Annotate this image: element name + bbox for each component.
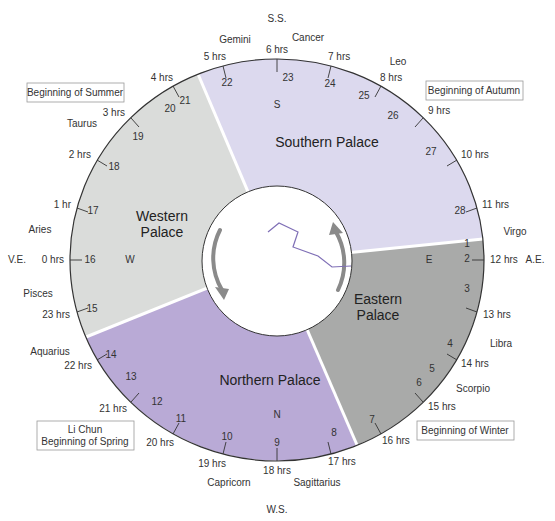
zodiac-leo: Leo	[390, 56, 407, 67]
western-palace-label-line2: Palace	[141, 224, 184, 240]
mansion-21: 21	[179, 95, 191, 106]
zodiac-aries: Aries	[29, 224, 52, 235]
lunar-mansions-diagram: 0 hrs 1 hr 2 hrs 3 hrs 4 hrs 5 hrs 6 hrs…	[0, 0, 555, 521]
hour-label-9: 9 hrs	[428, 105, 450, 116]
mansion-17: 17	[87, 205, 99, 216]
vernal-equinox-label: V.E.	[8, 254, 26, 265]
mansion-23: 23	[282, 72, 294, 83]
hour-label-11: 11 hrs	[482, 199, 509, 210]
hour-label-12: 12 hrs	[490, 254, 518, 265]
eastern-palace-label-line2: Palace	[357, 307, 400, 323]
hour-label-4: 4 hrs	[151, 72, 173, 83]
western-direction: W	[125, 254, 135, 265]
zodiac-capricorn: Capricorn	[207, 477, 250, 488]
zodiac-pisces: Pisces	[23, 288, 52, 299]
hour-label-0: 0 hrs	[42, 254, 64, 265]
mansion-8: 8	[331, 427, 337, 438]
li-chun-label: Li Chun	[68, 424, 102, 435]
beginning-of-spring-label: Beginning of Spring	[41, 436, 128, 447]
zodiac-taurus: Taurus	[67, 118, 97, 129]
hour-label-14: 14 hrs	[461, 358, 489, 369]
eastern-direction: E	[426, 254, 433, 265]
mansion-2: 2	[464, 253, 470, 264]
zodiac-scorpio: Scorpio	[456, 383, 490, 394]
hour-label-10: 10 hrs	[461, 149, 489, 160]
northern-direction: N	[273, 409, 280, 420]
hour-label-16: 16 hrs	[382, 435, 410, 446]
hour-label-5: 5 hrs	[204, 51, 226, 62]
mansion-10: 10	[221, 431, 233, 442]
hour-label-7: 7 hrs	[328, 51, 350, 62]
zodiac-libra: Libra	[490, 338, 513, 349]
mansion-6: 6	[416, 377, 422, 388]
beginning-of-autumn-label: Beginning of Autumn	[428, 85, 520, 96]
autumnal-equinox-label: A.E.	[526, 254, 545, 265]
mansion-22: 22	[221, 77, 233, 88]
western-palace-label-line1: Western	[136, 208, 188, 224]
mansion-25: 25	[358, 90, 370, 101]
summer-solstice-label: S.S.	[268, 13, 287, 24]
mansion-7: 7	[369, 414, 375, 425]
mansion-13: 13	[125, 371, 137, 382]
hour-label-6: 6 hrs	[266, 44, 288, 55]
northern-palace-label: Northern Palace	[219, 372, 320, 388]
hour-label-3: 3 hrs	[103, 107, 125, 118]
mansion-9: 9	[274, 437, 280, 448]
mansion-1: 1	[464, 238, 470, 249]
winter-solstice-label: W.S.	[266, 504, 287, 515]
hour-label-8: 8 hrs	[380, 72, 402, 83]
mansion-19: 19	[132, 131, 144, 142]
zodiac-cancer: Cancer	[292, 32, 325, 43]
mansion-20: 20	[164, 103, 176, 114]
southern-palace-label: Southern Palace	[275, 134, 379, 150]
mansion-24: 24	[324, 78, 336, 89]
hour-label-15: 15 hrs	[428, 401, 456, 412]
hour-label-2: 2 hrs	[69, 149, 91, 160]
mansion-12: 12	[151, 396, 163, 407]
hour-label-23: 23 hrs	[42, 309, 70, 320]
mansion-27: 27	[425, 146, 437, 157]
hour-label-13: 13 hrs	[483, 309, 511, 320]
hour-label-17: 17 hrs	[328, 456, 356, 467]
inner-circle	[202, 186, 352, 336]
eastern-palace-label-line1: Eastern	[354, 291, 402, 307]
mansion-3: 3	[464, 283, 470, 294]
mansion-11: 11	[176, 413, 187, 424]
mansion-28: 28	[454, 205, 466, 216]
mansion-4: 4	[447, 338, 453, 349]
hour-label-20: 20 hrs	[146, 437, 174, 448]
zodiac-virgo: Virgo	[503, 226, 527, 237]
mansion-5: 5	[429, 363, 435, 374]
zodiac-sagittarius: Sagittarius	[293, 477, 340, 488]
hour-label-21: 21 hrs	[99, 403, 127, 414]
mansion-18: 18	[108, 161, 120, 172]
mansion-16: 16	[84, 254, 96, 265]
mansion-15: 15	[86, 303, 98, 314]
mansion-26: 26	[387, 110, 399, 121]
hour-label-18: 18 hrs	[263, 465, 291, 476]
beginning-of-summer-label: Beginning of Summer	[27, 87, 124, 98]
beginning-of-winter-label: Beginning of Winter	[421, 425, 509, 436]
zodiac-gemini: Gemini	[219, 34, 251, 45]
hour-label-19: 19 hrs	[198, 458, 226, 469]
hour-label-22: 22 hrs	[64, 360, 92, 371]
southern-direction: S	[274, 99, 281, 110]
mansion-14: 14	[105, 349, 117, 360]
hour-label-1: 1 hr	[54, 199, 72, 210]
zodiac-aquarius: Aquarius	[30, 346, 69, 357]
